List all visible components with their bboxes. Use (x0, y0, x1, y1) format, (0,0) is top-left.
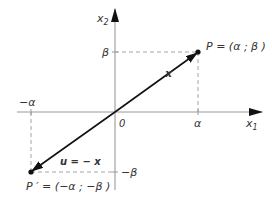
neg-alpha-label: −α (19, 96, 36, 109)
vector-x (115, 53, 197, 112)
beta-label: β (101, 46, 109, 59)
x2-axis-label: x2 (96, 12, 109, 27)
origin-label: 0 (119, 118, 125, 129)
alpha-label: α (194, 117, 202, 130)
vector-u-label: u = − x (60, 156, 101, 167)
diagram-canvas: x2 x1 0 β −β α −α x u = − x P = (α ; β )… (0, 0, 272, 200)
neg-beta-label: −β (121, 166, 137, 179)
x1-axis-label: x1 (245, 117, 258, 132)
point-p (195, 49, 200, 54)
vector-diagram: x2 x1 0 β −β α −α x u = − x P = (α ; β )… (0, 0, 272, 200)
vector-x-label: x (164, 67, 173, 80)
point-p-prime (28, 169, 33, 174)
point-p-prime-label: P ′ = (−α ; −β ) (26, 180, 110, 193)
point-p-label: P = (α ; β ) (206, 40, 266, 53)
